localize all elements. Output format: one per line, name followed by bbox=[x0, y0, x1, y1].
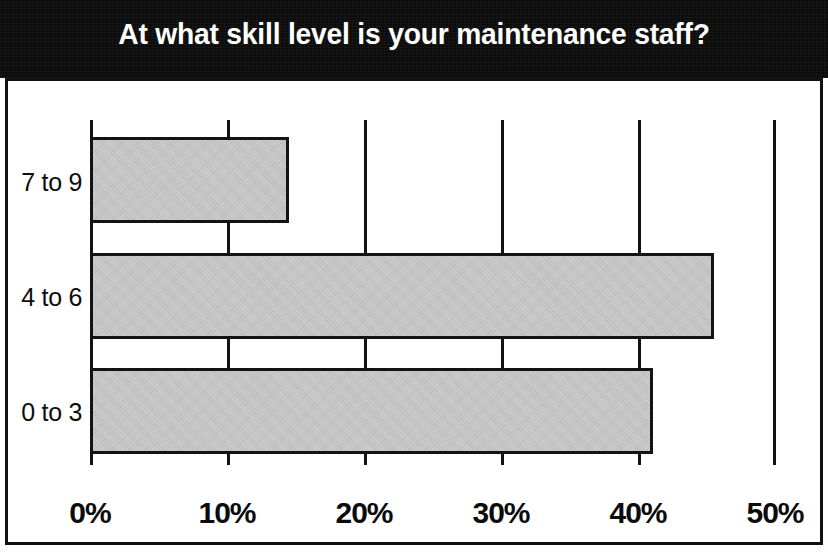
y-axis-tick-label-0-to-3: 0 to 3 bbox=[21, 400, 82, 425]
gridline-50-percent bbox=[773, 120, 776, 465]
title-banner: At what skill level is your maintenance … bbox=[0, 0, 828, 78]
x-axis-tick-label-30: 30% bbox=[441, 498, 561, 528]
bar-7-to-9 bbox=[90, 137, 289, 223]
plot-area bbox=[90, 120, 776, 465]
bar-0-to-3 bbox=[90, 368, 653, 454]
x-axis-tick-label-0: 0% bbox=[30, 498, 150, 528]
y-axis-tick-labels: 7 to 9 4 to 6 0 to 3 bbox=[0, 0, 82, 552]
chart-figure: At what skill level is your maintenance … bbox=[0, 0, 828, 552]
x-axis-tick-label-40: 40% bbox=[578, 498, 698, 528]
y-axis-tick-label-4-to-6: 4 to 6 bbox=[21, 285, 82, 310]
x-axis-tick-label-10: 10% bbox=[167, 498, 287, 528]
x-axis-tick-label-20: 20% bbox=[304, 498, 424, 528]
x-axis-tick-label-50: 50% bbox=[715, 498, 828, 528]
chart-title: At what skill level is your maintenance … bbox=[25, 17, 803, 51]
y-axis-tick-label-7-to-9: 7 to 9 bbox=[21, 170, 82, 195]
bar-4-to-6 bbox=[90, 253, 714, 339]
